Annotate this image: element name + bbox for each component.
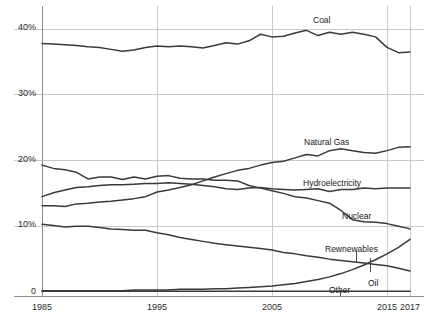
x-tick-label-2005: 2005 — [254, 303, 290, 312]
series-line-coal — [42, 30, 410, 52]
y-tick-label-40: 40% — [2, 23, 36, 32]
chart-canvas — [0, 0, 433, 322]
x-tick-label-1995: 1995 — [139, 303, 175, 312]
series-label-nuclear: Nuclear — [342, 212, 371, 221]
series-label-oil: Oil — [368, 279, 378, 288]
energy-mix-line-chart: 40% 30% 20% 10% 0 1985 1995 2005 2015 20… — [0, 0, 433, 322]
y-tick-label-30: 30% — [2, 89, 36, 98]
y-tick-label-20: 20% — [2, 155, 36, 164]
x-tick-label-1985: 1985 — [24, 303, 60, 312]
series-label-rewnewables: Rewnewables — [325, 245, 378, 254]
series-label-natural-gas: Natural Gas — [304, 138, 349, 147]
series-label-other: Other — [329, 286, 350, 295]
y-tick-label-10: 10% — [2, 220, 36, 229]
series-label-hydroelectricity: Hydroelectricity — [303, 179, 361, 188]
x-tick-label-2017: 2017 — [392, 303, 428, 312]
y-tick-label-0: 0 — [2, 287, 36, 296]
series-label-coal: Coal — [313, 16, 330, 25]
